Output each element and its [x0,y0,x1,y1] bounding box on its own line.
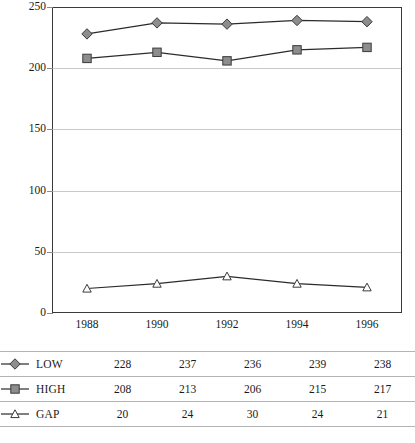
cropped-footer-text [0,434,415,443]
data-cell: 237 [155,352,220,377]
x-axis-label: 1994 [267,318,327,330]
chart-page: 050100150200250 19881990199219941996 LOW… [0,0,415,443]
data-cell: 30 [220,402,285,427]
series-name-label: LOW [36,358,63,370]
triangle-marker-icon [223,272,231,280]
x-axis-label: 1992 [197,318,257,330]
data-cell: 206 [220,377,285,402]
square-marker-icon [11,385,19,393]
data-cell: 217 [350,377,415,402]
data-cell: 239 [285,352,350,377]
square-marker-icon [293,46,301,54]
series-name-label: GAP [36,408,60,420]
diamond-marker-icon [152,18,162,28]
data-cell: 213 [155,377,220,402]
data-cell: 24 [285,402,350,427]
legend-diamond-marker-swatch [0,357,30,371]
diamond-marker-icon [10,359,20,369]
data-cell: 21 [350,402,415,427]
series-key-cell: LOW [0,352,90,377]
data-cell: 228 [90,352,155,377]
diamond-marker-icon [362,16,372,26]
square-marker-icon [363,43,371,51]
data-cell: 208 [90,377,155,402]
data-cell: 20 [90,402,155,427]
table-row: HIGH208213206215217 [0,377,415,402]
table-row: GAP2024302421 [0,402,415,427]
x-axis-label: 1988 [57,318,117,330]
square-marker-icon [223,57,231,65]
data-cell: 24 [155,402,220,427]
legend-square-marker-swatch [0,382,30,396]
data-cell: 238 [350,352,415,377]
diamond-marker-icon [292,15,302,25]
data-table: LOW228237236239238HIGH208213206215217GAP… [0,351,415,427]
square-marker-icon [153,48,161,56]
series-key-cell: HIGH [0,377,90,402]
x-axis-label: 1990 [127,318,187,330]
data-cell: 215 [285,377,350,402]
legend-triangle-marker-swatch [0,407,30,421]
x-axis-label: 1996 [337,318,397,330]
diamond-marker-icon [222,19,232,29]
series-key-cell: GAP [0,402,90,427]
data-table-wrap: LOW228237236239238HIGH208213206215217GAP… [0,351,415,427]
table-row: LOW228237236239238 [0,352,415,377]
diamond-marker-icon [82,29,92,39]
series-name-label: HIGH [36,383,66,395]
square-marker-icon [83,54,91,62]
data-cell: 236 [220,352,285,377]
line-chart: 050100150200250 19881990199219941996 [0,0,415,345]
series-layer [0,0,415,345]
